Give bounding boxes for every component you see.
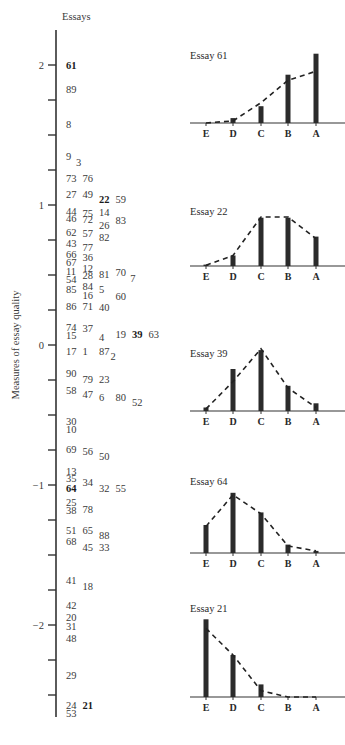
essay-point-label: 38 xyxy=(66,505,77,516)
essay-point-label: 47 xyxy=(83,389,94,400)
observed-bar xyxy=(231,256,236,267)
essay-point-label: 31 xyxy=(66,621,77,632)
mini-category-label: C xyxy=(257,558,264,569)
observed-bar xyxy=(231,655,236,697)
essay-point-label: 87 xyxy=(99,346,110,357)
essay-point-label: 83 xyxy=(116,215,127,226)
mini-chart-title: Essay 61 xyxy=(190,50,228,61)
observed-bar xyxy=(259,512,264,553)
y-tick-label: −2 xyxy=(33,620,44,631)
mini-category-label: D xyxy=(229,558,236,569)
essay-quality-figure: EssaysMeasures of essay quality210−1−261… xyxy=(0,0,345,745)
mini-chart-title: Essay 21 xyxy=(190,603,228,614)
essay-point-label: 29 xyxy=(66,670,77,681)
mini-category-label: A xyxy=(312,271,320,282)
mini-chart-essay-64: Essay 64EDCBA xyxy=(190,476,345,569)
mini-chart-title: Essay 64 xyxy=(190,476,228,487)
essay-point-label: 39 xyxy=(132,329,143,340)
observed-bar xyxy=(314,54,319,123)
essay-point-label: 21 xyxy=(83,700,94,711)
essay-point-label: 62 xyxy=(66,227,77,238)
essay-point-label: 69 xyxy=(66,444,77,455)
essay-point-label: 14 xyxy=(99,207,110,218)
essay-point-label: 78 xyxy=(83,504,94,515)
mini-chart-essay-21: Essay 21EDCBA xyxy=(190,603,345,713)
essay-point-label: 28 xyxy=(83,270,94,281)
mini-category-label: E xyxy=(203,128,210,139)
essay-point-label: 7 xyxy=(130,273,135,284)
essay-point-label: 3 xyxy=(76,157,81,168)
mini-chart-essay-22: Essay 22EDCBA xyxy=(190,206,345,282)
essay-point-label: 10 xyxy=(66,424,77,435)
essay-point-label: 61 xyxy=(66,60,77,71)
mini-chart-essay-61: Essay 61EDCBA xyxy=(190,50,345,139)
essay-point-label: 19 xyxy=(116,329,127,340)
observed-bar xyxy=(314,237,319,266)
mini-category-label: B xyxy=(285,558,292,569)
essay-point-label: 15 xyxy=(66,330,77,341)
essay-point-label: 82 xyxy=(99,232,110,243)
y-axis-label: Measures of essay quality xyxy=(10,290,21,400)
observed-bar xyxy=(231,369,236,411)
essay-point-label: 2 xyxy=(111,351,116,362)
mini-category-label: E xyxy=(203,271,210,282)
observed-bar xyxy=(286,386,291,411)
mini-category-label: A xyxy=(312,702,320,713)
essay-point-label: 4 xyxy=(99,332,105,343)
essay-point-label: 73 xyxy=(66,173,77,184)
essay-point-label: 23 xyxy=(99,374,110,385)
essay-point-label: 72 xyxy=(83,214,94,225)
essay-point-label: 71 xyxy=(83,301,94,312)
essay-point-label: 33 xyxy=(99,542,110,553)
essay-point-label: 37 xyxy=(83,323,94,334)
mini-chart-essay-39: Essay 39EDCBA xyxy=(190,348,345,427)
scale-plot: EssaysMeasures of essay quality210−1−261… xyxy=(10,11,159,719)
essay-point-label: 8 xyxy=(66,119,71,130)
mini-category-label: C xyxy=(257,702,264,713)
mini-category-label: E xyxy=(203,558,210,569)
essay-point-label: 88 xyxy=(99,530,110,541)
mini-category-label: A xyxy=(312,128,320,139)
mini-category-label: D xyxy=(229,702,236,713)
essay-point-label: 58 xyxy=(66,385,77,396)
essay-point-label: 42 xyxy=(66,600,77,611)
essay-point-label: 56 xyxy=(83,446,94,457)
essay-point-label: 57 xyxy=(83,228,94,239)
essay-point-label: 46 xyxy=(66,213,77,224)
essay-point-label: 65 xyxy=(83,525,94,536)
observed-bar xyxy=(259,350,264,411)
y-tick-label: −1 xyxy=(33,480,44,491)
essay-point-label: 18 xyxy=(83,581,94,592)
y-tick-label: 2 xyxy=(39,60,44,71)
essay-point-label: 40 xyxy=(99,302,110,313)
mini-chart-title: Essay 22 xyxy=(190,206,228,217)
observed-bar xyxy=(231,493,236,553)
essay-point-label: 76 xyxy=(83,173,94,184)
essay-point-label: 59 xyxy=(116,194,127,205)
mini-category-label: A xyxy=(312,558,320,569)
observed-bar xyxy=(259,218,264,266)
mini-category-label: E xyxy=(203,702,210,713)
column-title: Essays xyxy=(62,11,91,22)
observed-bar xyxy=(204,525,209,553)
essay-point-label: 68 xyxy=(66,536,77,547)
essay-point-label: 48 xyxy=(66,633,77,644)
essay-point-label: 41 xyxy=(66,575,77,586)
mini-category-label: B xyxy=(285,416,292,427)
essay-point-label: 52 xyxy=(132,397,143,408)
mini-category-label: C xyxy=(257,271,264,282)
essay-point-label: 63 xyxy=(149,329,160,340)
observed-bar xyxy=(259,106,264,123)
essay-point-label: 89 xyxy=(66,84,77,95)
observed-bar xyxy=(286,218,291,266)
essay-point-label: 6 xyxy=(99,392,104,403)
essay-point-label: 27 xyxy=(66,189,77,200)
essay-point-label: 32 xyxy=(99,483,110,494)
essay-point-label: 49 xyxy=(83,189,94,200)
essay-point-label: 17 xyxy=(66,346,77,357)
essay-point-label: 53 xyxy=(66,708,77,719)
essay-point-label: 55 xyxy=(116,483,127,494)
essay-point-label: 22 xyxy=(99,194,110,205)
y-tick-label: 0 xyxy=(39,340,44,351)
mini-category-label: E xyxy=(203,416,210,427)
